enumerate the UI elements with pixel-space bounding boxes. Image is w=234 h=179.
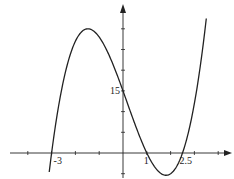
y-tick-label: 15 <box>110 85 120 96</box>
x-axis-arrow-icon <box>224 150 232 156</box>
chart: -312.515 <box>0 0 234 179</box>
function-curve <box>49 18 206 175</box>
x-tick-label: -3 <box>54 155 62 166</box>
y-axis-arrow-icon <box>120 4 126 13</box>
